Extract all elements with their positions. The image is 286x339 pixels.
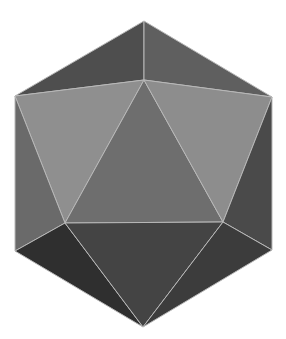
icosahedron-illustration <box>0 0 286 339</box>
icosahedron-figure: icosahedron <box>0 0 286 339</box>
